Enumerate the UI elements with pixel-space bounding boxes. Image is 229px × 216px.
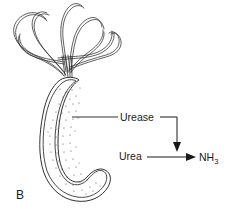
ammonia-subscript: 3 — [214, 157, 218, 166]
urease-to-reaction-connector — [160, 117, 177, 144]
panel-letter-label: B — [16, 188, 24, 202]
ammonia-label: NH3 — [199, 151, 218, 166]
urease-connector-arrowhead — [173, 142, 181, 152]
ammonia-base: NH — [199, 151, 214, 163]
urease-label: Urease — [120, 111, 154, 123]
flagellum-8 — [19, 34, 64, 62]
flagellum-1-shadow — [16, 15, 64, 76]
cell-wall-inner — [43, 80, 107, 198]
figure-panel-b: Urease Urea NH3 B — [0, 0, 229, 216]
flagellum-7-shadow — [58, 33, 114, 60]
flagellum-bundle-c — [68, 55, 70, 77]
bacterium-urease-diagram: Urease Urea NH3 B — [0, 0, 229, 216]
reaction-arrowhead — [186, 153, 196, 161]
flagella-group — [14, 4, 122, 78]
flagellum-bundle-d — [71, 56, 72, 78]
urea-label: Urea — [119, 150, 142, 162]
bacterium-cell-body — [40, 77, 111, 201]
